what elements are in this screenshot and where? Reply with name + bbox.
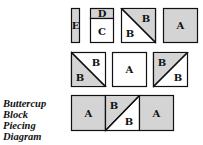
label-b-r2-right-lower: B — [174, 72, 182, 83]
label-b-r2-left-lower: B — [76, 72, 84, 83]
label-b-r3-upper: B — [110, 100, 118, 111]
label-d: D — [98, 8, 107, 19]
label-e: E — [72, 20, 80, 31]
label-b-r3-lower: B — [125, 116, 133, 127]
label-b-r2-right-upper: B — [158, 57, 166, 68]
label-b-r1-lower: B — [126, 28, 134, 39]
label-a-r1: A — [176, 20, 185, 31]
piecing-diagram: E D C B B A B B A B B A B B A — [0, 0, 203, 145]
label-b-r2-left-upper: B — [92, 57, 100, 68]
label-a-r2: A — [125, 64, 134, 75]
label-b-r1-upper: B — [142, 13, 150, 24]
label-a-r3-right: A — [152, 108, 161, 119]
label-c: C — [98, 26, 106, 37]
label-a-r3-left: A — [84, 108, 93, 119]
